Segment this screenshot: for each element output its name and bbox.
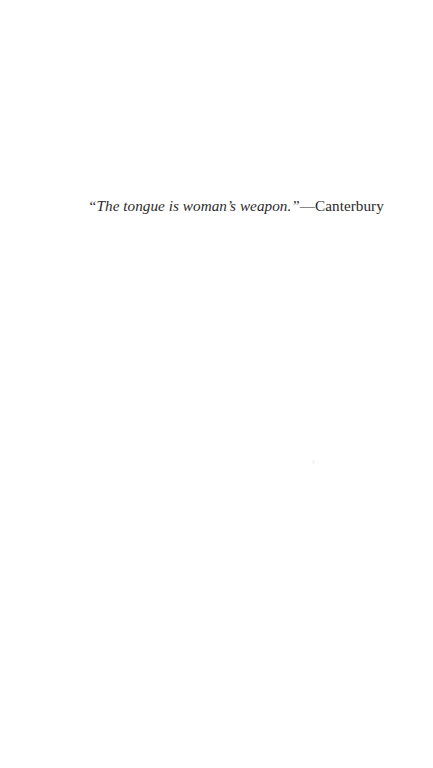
scan-speck-artifact bbox=[312, 460, 315, 464]
epigraph-attribution: —Canterbury bbox=[300, 197, 384, 214]
epigraph-block: “The tongue is woman’s weapon.”—Canterbu… bbox=[88, 196, 388, 217]
document-page: “The tongue is woman’s weapon.”—Canterbu… bbox=[0, 0, 433, 768]
epigraph-line: “The tongue is woman’s weapon.”—Canterbu… bbox=[88, 196, 388, 217]
epigraph-quote: “The tongue is woman’s weapon.” bbox=[88, 197, 300, 214]
